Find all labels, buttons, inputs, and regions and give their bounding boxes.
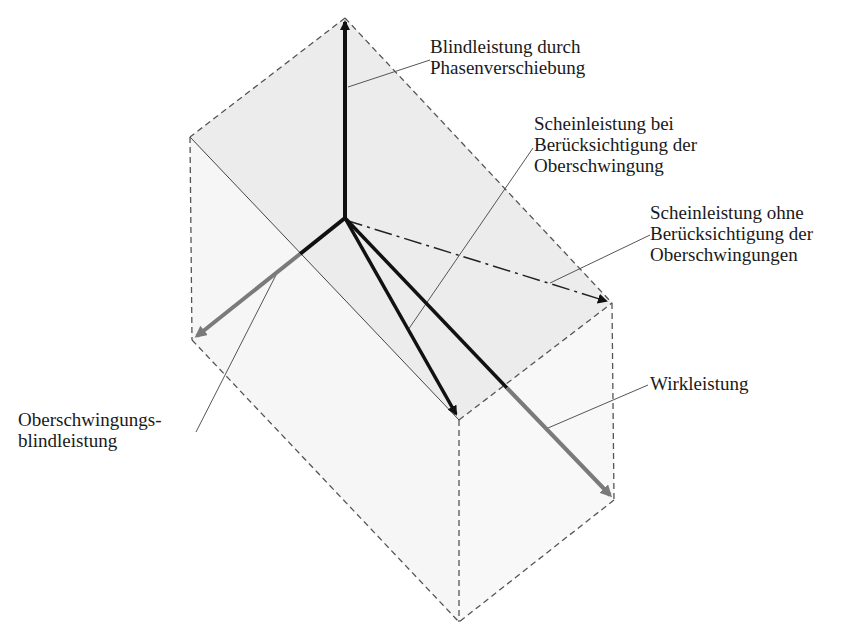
- label-line: Blindleistung durch: [430, 36, 585, 57]
- label-line: Scheinleistung ohne: [650, 202, 813, 223]
- label-line: Oberschwingungs-: [18, 409, 162, 430]
- label-line: blindleistung: [18, 430, 162, 451]
- label-line: Oberschwingungen: [650, 244, 813, 265]
- label-wirkleistung: Wirkleistung: [650, 373, 748, 394]
- label-line: Wirkleistung: [650, 373, 748, 394]
- label-schein-ohne: Scheinleistung ohne Berücksichtigung der…: [650, 202, 813, 265]
- label-oberschwingungsblind: Oberschwingungs- blindleistung: [18, 409, 162, 451]
- label-line: Scheinleistung bei: [534, 113, 697, 134]
- label-schein-mit: Scheinleistung bei Berücksichtigung der …: [534, 113, 697, 176]
- label-line: Phasenverschiebung: [430, 57, 585, 78]
- label-blindleistung: Blindleistung durch Phasenverschiebung: [430, 36, 585, 78]
- power-vector-diagram: [0, 0, 863, 637]
- label-line: Berücksichtigung der: [650, 223, 813, 244]
- label-line: Berücksichtigung der: [534, 134, 697, 155]
- label-line: Oberschwingung: [534, 155, 697, 176]
